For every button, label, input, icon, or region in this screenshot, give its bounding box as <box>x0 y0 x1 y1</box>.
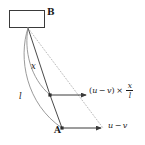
box-b <box>10 11 45 28</box>
label-point-b: B <box>47 8 55 17</box>
scaled-minus: − <box>99 87 106 95</box>
scaled-fraction: x l <box>126 82 133 99</box>
scaled-fraction-denominator: l <box>128 91 132 99</box>
base-v: v <box>123 122 128 130</box>
scaled-fraction-numerator: x <box>127 82 133 90</box>
label-point-a: A <box>54 126 61 135</box>
vector-diagram: B A x l ( u − v ) × x l u − v <box>0 0 145 145</box>
label-scaled-vector-expression: ( u − v ) × x l <box>89 82 133 99</box>
dotted-construction-line <box>28 28 103 128</box>
label-distance-l: l <box>19 92 22 101</box>
scaled-times: × <box>116 87 123 95</box>
base-u: u <box>108 122 113 130</box>
label-base-vector-expression: u − v <box>108 122 127 130</box>
scaled-close-paren: ) <box>112 87 115 95</box>
scaled-u: u <box>92 87 97 95</box>
base-minus: − <box>115 122 122 130</box>
label-distance-x: x <box>31 62 36 71</box>
